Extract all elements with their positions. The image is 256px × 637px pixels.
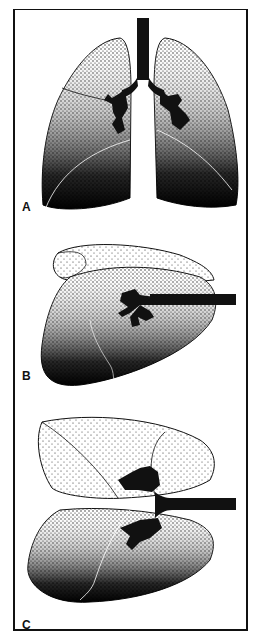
panel-label-c: C (22, 618, 31, 632)
panel-a: A (0, 0, 256, 215)
trachea (137, 18, 149, 80)
panel-label-b: B (22, 369, 31, 383)
panel-label-a: A (22, 200, 31, 214)
lateral-lungs-separated-diagram (0, 410, 256, 637)
lateral-lungs-superimposed-diagram (0, 225, 256, 425)
panel-c: C (0, 410, 256, 637)
main-bronchus (170, 498, 236, 510)
panel-b: B (0, 225, 256, 425)
main-bronchus (150, 294, 236, 305)
upright-lungs-diagram (0, 0, 256, 215)
